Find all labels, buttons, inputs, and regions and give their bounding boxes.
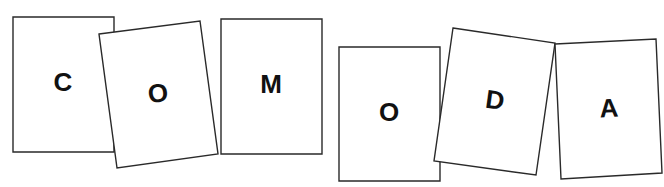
card-o-first: O — [99, 21, 218, 168]
card-o-second-letter: O — [379, 97, 399, 127]
card-a-letter: A — [599, 93, 620, 124]
card-m: M — [221, 19, 322, 154]
card-o-first-letter: O — [146, 77, 170, 109]
card-a: A — [555, 39, 662, 179]
card-c-letter: C — [54, 67, 73, 97]
card-o-second: O — [339, 47, 440, 181]
letter-cards-figure: C O M O D A — [0, 0, 664, 187]
card-d: D — [434, 28, 555, 175]
card-m-letter: M — [260, 69, 282, 99]
cards-canvas: C O M O D A — [0, 0, 664, 187]
